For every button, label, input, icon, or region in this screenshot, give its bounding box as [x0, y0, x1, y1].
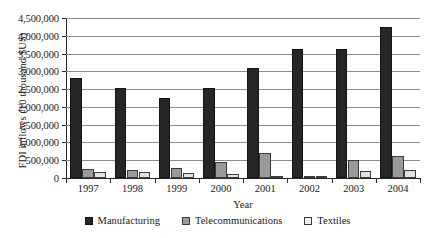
bar-group — [332, 18, 376, 178]
bar-textiles-2003 — [360, 171, 372, 178]
x-axis-tick-label: 2002 — [299, 183, 320, 194]
bar-telecommunications-2004 — [392, 156, 404, 178]
y-axis-tick-label: 0 — [54, 173, 59, 184]
bar-manufacturing-2001 — [247, 68, 259, 178]
x-axis-tick-label: 2001 — [255, 183, 276, 194]
x-axis-title: Year — [66, 199, 420, 210]
x-axis-tick-label: 2003 — [343, 183, 364, 194]
bar-manufacturing-1999 — [159, 98, 171, 178]
legend-label: Manufacturing — [98, 215, 160, 226]
legend-swatch-icon — [304, 217, 312, 225]
legend-item-manufacturing: Manufacturing — [85, 215, 160, 226]
bar-group — [376, 18, 420, 178]
bar-telecommunications-1998 — [127, 170, 139, 178]
x-axis-tick-label: 2000 — [210, 183, 231, 194]
legend-swatch-icon — [182, 217, 190, 225]
x-axis-tick-label: 1999 — [166, 183, 187, 194]
x-axis-tick-label: 1998 — [122, 183, 143, 194]
y-axis-tick-label: 3,000,000 — [18, 66, 59, 77]
y-axis-tick-label: 3,500,000 — [18, 48, 59, 59]
bar-telecommunications-2003 — [348, 160, 360, 178]
y-axis-tick-label: 4,000,000 — [18, 30, 59, 41]
legend-label: Telecommunications — [195, 215, 282, 226]
bar-group — [199, 18, 243, 178]
legend-label: Textiles — [317, 215, 350, 226]
x-axis-tick-labels: 19971998199920002001200220032004 — [66, 183, 420, 197]
bar-telecommunications-1997 — [82, 169, 94, 178]
x-axis-tick-label: 2004 — [387, 183, 408, 194]
y-axis-tick-label: 4,500,000 — [18, 13, 59, 24]
x-axis-tick-label: 1997 — [78, 183, 99, 194]
y-axis-tick-label: 1,500,000 — [18, 119, 59, 130]
chart-legend: ManufacturingTelecommunicationsTextiles — [0, 215, 435, 226]
bar-group — [243, 18, 287, 178]
fdi-inflows-bar-chart: FDI inflows (10 thousand $US) 4,500,0004… — [0, 0, 435, 238]
y-axis-tick-label: 1,000,000 — [18, 137, 59, 148]
bar-telecommunications-2001 — [259, 153, 271, 178]
bar-telecommunications-2000 — [215, 162, 227, 178]
y-axis-tick-label: 2,500,000 — [18, 84, 59, 95]
bar-manufacturing-1998 — [115, 88, 127, 178]
bar-group — [287, 18, 331, 178]
bar-textiles-2004 — [404, 170, 416, 178]
y-axis-tick-labels: 4,500,0004,000,0003,500,0003,000,0002,50… — [0, 0, 66, 238]
y-axis-tick-label: 500,000 — [26, 155, 59, 166]
bar-group — [155, 18, 199, 178]
bar-manufacturing-2004 — [380, 27, 392, 178]
plot-area — [66, 18, 420, 178]
bar-manufacturing-2000 — [203, 88, 215, 178]
legend-item-telecommunications: Telecommunications — [182, 215, 282, 226]
y-axis-tick-label: 2,000,000 — [18, 101, 59, 112]
x-axis-tick — [420, 178, 421, 183]
bar-manufacturing-1997 — [70, 78, 82, 178]
bar-group — [110, 18, 154, 178]
legend-item-textiles: Textiles — [304, 215, 350, 226]
bar-manufacturing-2003 — [336, 49, 348, 178]
bar-manufacturing-2002 — [292, 49, 304, 178]
bar-telecommunications-1999 — [171, 168, 183, 178]
bar-group — [66, 18, 110, 178]
legend-swatch-icon — [85, 217, 93, 225]
